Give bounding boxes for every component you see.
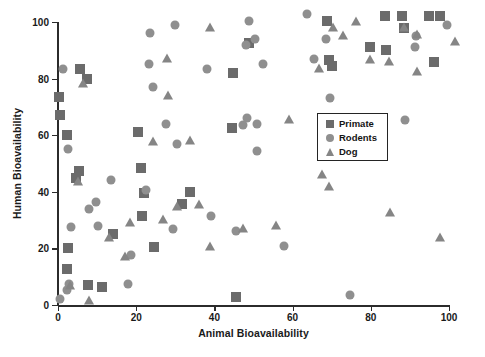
data-point-primate[interactable]: [429, 57, 439, 67]
data-point-rodents[interactable]: [401, 115, 410, 124]
data-point-rodents[interactable]: [207, 211, 216, 220]
data-point-rodents[interactable]: [144, 60, 153, 69]
data-point-dog[interactable]: [163, 90, 173, 99]
data-point-dog[interactable]: [271, 220, 281, 229]
data-point-dog[interactable]: [205, 22, 215, 31]
data-point-rodents[interactable]: [252, 119, 261, 128]
legend-item-primate[interactable]: Primate: [323, 117, 383, 131]
data-point-primate[interactable]: [424, 11, 434, 21]
data-point-dog[interactable]: [104, 233, 114, 242]
data-point-primate[interactable]: [149, 242, 159, 252]
data-point-dog[interactable]: [399, 22, 409, 31]
data-point-rodents[interactable]: [67, 223, 76, 232]
data-point-rodents[interactable]: [64, 145, 73, 154]
data-point-dog[interactable]: [338, 31, 348, 40]
data-point-dog[interactable]: [162, 53, 172, 62]
y-tick-label: 100: [22, 17, 49, 28]
data-point-dog[interactable]: [412, 66, 422, 75]
data-point-rodents[interactable]: [161, 119, 170, 128]
data-point-primate[interactable]: [228, 68, 238, 78]
data-point-dog[interactable]: [385, 208, 395, 217]
y-axis-title: Human Bioavailability: [8, 22, 26, 305]
data-point-rodents[interactable]: [55, 295, 64, 304]
data-point-primate[interactable]: [54, 92, 64, 102]
data-point-dog[interactable]: [412, 29, 422, 38]
data-point-rodents[interactable]: [146, 29, 155, 38]
data-point-rodents[interactable]: [244, 16, 253, 25]
data-point-rodents[interactable]: [124, 279, 133, 288]
data-point-primate[interactable]: [380, 11, 390, 21]
data-point-dog[interactable]: [317, 169, 327, 178]
data-point-dog[interactable]: [324, 181, 334, 190]
data-point-primate[interactable]: [97, 282, 107, 292]
data-point-dog[interactable]: [205, 242, 215, 251]
data-point-rodents[interactable]: [443, 20, 452, 29]
data-point-rodents[interactable]: [322, 34, 331, 43]
data-point-rodents[interactable]: [242, 40, 251, 49]
data-point-rodents[interactable]: [171, 20, 180, 29]
data-point-rodents[interactable]: [303, 9, 312, 18]
data-point-rodents[interactable]: [326, 94, 335, 103]
data-point-dog[interactable]: [158, 215, 168, 224]
data-point-rodents[interactable]: [411, 43, 420, 52]
data-point-dog[interactable]: [185, 135, 195, 144]
plot-area: [0, 0, 485, 357]
data-point-dog[interactable]: [435, 233, 445, 242]
data-point-dog[interactable]: [73, 176, 83, 185]
data-point-rodents[interactable]: [346, 291, 355, 300]
data-point-primate[interactable]: [63, 243, 73, 253]
data-point-primate[interactable]: [62, 264, 72, 274]
data-point-rodents[interactable]: [58, 64, 67, 73]
data-point-rodents[interactable]: [148, 83, 157, 92]
data-point-dog[interactable]: [148, 137, 158, 146]
data-point-rodents[interactable]: [172, 139, 181, 148]
data-point-rodents[interactable]: [93, 221, 102, 230]
data-point-primate[interactable]: [381, 45, 391, 55]
data-point-dog[interactable]: [172, 202, 182, 211]
data-point-primate[interactable]: [136, 163, 146, 173]
data-point-primate[interactable]: [83, 280, 93, 290]
data-point-rodents[interactable]: [251, 34, 260, 43]
data-point-rodents[interactable]: [258, 60, 267, 69]
data-point-dog[interactable]: [384, 56, 394, 65]
data-point-primate[interactable]: [137, 211, 147, 221]
data-point-dog[interactable]: [194, 199, 204, 208]
data-point-dog[interactable]: [84, 295, 94, 304]
legend-item-dog[interactable]: Dog: [323, 145, 383, 159]
data-point-rodents[interactable]: [107, 175, 116, 184]
data-point-dog[interactable]: [450, 36, 460, 45]
data-point-rodents[interactable]: [91, 197, 100, 206]
data-point-dog[interactable]: [120, 251, 130, 260]
data-point-dog[interactable]: [351, 17, 361, 26]
data-point-primate[interactable]: [75, 64, 85, 74]
data-point-rodents[interactable]: [243, 114, 252, 123]
x-tick-label: 0: [55, 312, 61, 323]
data-point-primate[interactable]: [227, 123, 237, 133]
data-point-primate[interactable]: [397, 11, 407, 21]
data-point-dog[interactable]: [78, 79, 88, 88]
data-point-dog[interactable]: [125, 218, 135, 227]
data-point-primate[interactable]: [365, 42, 375, 52]
data-point-rodents[interactable]: [252, 146, 261, 155]
data-point-primate[interactable]: [327, 61, 337, 71]
data-point-primate[interactable]: [435, 11, 445, 21]
data-point-primate[interactable]: [185, 187, 195, 197]
data-point-rodents[interactable]: [309, 54, 318, 63]
data-point-primate[interactable]: [74, 166, 84, 176]
y-tick-label: 60: [22, 130, 49, 141]
data-point-dog[interactable]: [284, 114, 294, 123]
data-point-dog[interactable]: [238, 224, 248, 233]
x-tick-label: 80: [365, 312, 376, 323]
data-point-primate[interactable]: [133, 127, 143, 137]
data-point-dog[interactable]: [314, 63, 324, 72]
data-point-primate[interactable]: [62, 130, 72, 140]
data-point-rodents[interactable]: [279, 241, 288, 250]
data-point-dog[interactable]: [365, 55, 375, 64]
data-point-rodents[interactable]: [203, 64, 212, 73]
data-point-primate[interactable]: [55, 110, 65, 120]
data-point-rodents[interactable]: [141, 186, 150, 195]
data-point-rodents[interactable]: [168, 224, 177, 233]
data-point-primate[interactable]: [231, 292, 241, 302]
data-point-dog[interactable]: [65, 280, 75, 289]
legend-item-rodents[interactable]: Rodents: [323, 131, 383, 145]
